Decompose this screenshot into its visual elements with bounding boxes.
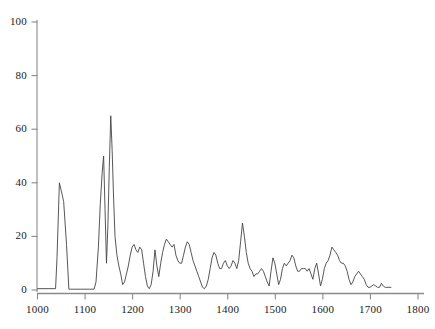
y-axis-tick-label: 60 (0, 123, 27, 134)
y-axis-tick-label: 100 (0, 16, 27, 27)
line-chart: 020406080100 100011001200130014001500160… (0, 0, 435, 329)
x-axis-tick-label: 1600 (298, 304, 348, 315)
x-axis-tick-label: 1300 (155, 304, 205, 315)
data-series-line (38, 116, 391, 289)
x-axis-ticks (38, 294, 419, 300)
x-axis-tick-label: 1500 (250, 304, 300, 315)
chart-plot-area (0, 0, 435, 329)
x-axis-tick-label: 1200 (108, 304, 158, 315)
x-axis-tick-label: 1800 (393, 304, 435, 315)
x-axis-tick-label: 1700 (345, 304, 395, 315)
y-axis-tick-label: 20 (0, 230, 27, 241)
x-axis-tick-label: 1100 (60, 304, 110, 315)
x-axis-tick-label: 1400 (203, 304, 253, 315)
y-axis-tick-label: 40 (0, 177, 27, 188)
y-axis-tick-label: 0 (0, 284, 27, 295)
axis-group (32, 20, 425, 300)
y-axis-tick-label: 80 (0, 70, 27, 81)
x-axis-tick-label: 1000 (13, 304, 63, 315)
